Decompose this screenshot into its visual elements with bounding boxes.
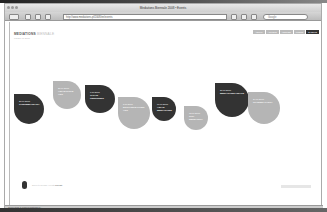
window-controls <box>7 6 18 9</box>
browser-toolbar: http://www.mediations.pl/2008/en/events … <box>5 12 321 21</box>
logo-main: MEDIATIONS <box>14 32 36 36</box>
site-subtitle: POZNAN 2008 <box>14 37 30 40</box>
event-drop[interactable]: 20.09.2008 CONTEMPORARY <box>14 94 44 124</box>
stop-button[interactable] <box>45 14 51 20</box>
footer-link[interactable]: Full list <box>55 184 62 186</box>
rss-icon[interactable] <box>231 14 237 20</box>
close-button[interactable] <box>7 6 10 9</box>
bookmark-icon[interactable] <box>241 14 247 20</box>
event-title: CLOSING PARTY <box>253 101 276 104</box>
minimize-button[interactable] <box>11 6 14 9</box>
title-bar: Mediations Biennale 2008 • Events <box>5 4 321 12</box>
footer-hint: Scroll to browse events Full list <box>32 184 62 186</box>
zoom-button[interactable] <box>15 6 18 9</box>
event-drop[interactable]: 10.10.2008 ASIAN MEDIATIONS <box>152 97 176 121</box>
downloads-icon[interactable] <box>251 14 257 20</box>
page-content: MEDIATIONS BIENNALE POZNAN 2008 ABOUT AR… <box>9 22 325 205</box>
home-button[interactable] <box>35 14 41 20</box>
event-drop[interactable]: 20.10.2008 MEDIATIONS FINALE <box>215 83 249 117</box>
event-drop[interactable]: 12.10.2008 CITY RESEARCH <box>184 106 208 130</box>
nav-venues[interactable]: VENUES <box>280 30 293 34</box>
event-drop[interactable]: 21.09.2008 ASIAN CHILD ART <box>53 81 81 109</box>
event-title: EXCHANGE POINT ART <box>123 106 146 112</box>
search-input[interactable]: Google <box>263 14 308 20</box>
event-drop[interactable]: 24.10.2008 CLOSING PARTY <box>248 92 280 124</box>
logo-accent: BIENNALE <box>37 32 54 36</box>
event-drop[interactable]: 5.10.2008 EXCHANGE POINT ART <box>118 97 150 129</box>
window-title: Mediations Biennale 2008 • Events <box>140 6 186 10</box>
site-logo[interactable]: MEDIATIONS BIENNALE <box>14 32 54 36</box>
event-title: JAPAN CENTURIES <box>90 94 111 100</box>
main-nav: ABOUT ARTISTS VENUES PRESS EVENTS <box>253 30 319 34</box>
nav-events[interactable]: EVENTS <box>306 30 319 34</box>
event-title: ASIAN CHILD ART <box>58 90 77 96</box>
nav-artists[interactable]: ARTISTS <box>266 30 279 34</box>
event-title: MEDIATIONS FINALE <box>220 92 245 95</box>
reload-button[interactable] <box>25 14 31 20</box>
event-drop[interactable]: 1.10.2008 JAPAN CENTURIES <box>85 85 115 113</box>
footer-text: Scroll to browse events <box>32 184 55 186</box>
address-bar[interactable]: http://www.mediations.pl/2008/en/events <box>63 14 227 20</box>
screen-bottom-bar <box>0 208 327 212</box>
nav-press[interactable]: PRESS <box>294 30 305 34</box>
browser-window: Mediations Biennale 2008 • Events http:/… <box>4 3 322 208</box>
event-title: CONTEMPORARY <box>19 103 40 106</box>
footer-slider[interactable] <box>281 185 311 188</box>
event-title: ASIAN MEDIATIONS <box>157 106 172 112</box>
mouse-scroll-icon <box>22 181 27 189</box>
nav-about[interactable]: ABOUT <box>253 30 265 34</box>
back-forward-button[interactable] <box>9 14 19 20</box>
event-title: CITY RESEARCH <box>189 115 204 121</box>
